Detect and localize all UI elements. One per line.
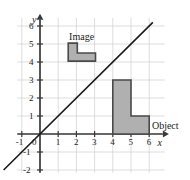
y-tick-label: 5 [29,40,34,49]
x-tick-label: 4 [110,138,115,147]
y-axis-name: y [32,15,36,25]
y-axis-arrow [37,14,44,20]
y-tick-label: 3 [29,76,34,85]
x-tick-label: -1 [16,138,24,147]
object-label: Object [152,121,179,131]
y-tick-label: 4 [29,58,34,67]
x-axis-arrow [163,131,169,138]
shape-object [113,80,149,134]
y-tick-label: -1 [23,148,31,157]
x-axis-name: x [157,138,161,148]
figure-canvas: -10123456-2-1123456xyImageObject [0,0,190,180]
x-tick-label: 1 [56,138,61,147]
x-tick-label-origin: 0 [32,138,37,147]
x-tick-label: 5 [129,138,134,147]
x-tick-label: 6 [147,138,152,147]
x-tick-label: 2 [74,138,79,147]
y-tick-label: 2 [29,94,34,103]
image-label: Image [69,32,94,42]
shape-image [68,43,95,61]
x-tick-label: 3 [92,138,97,147]
y-tick-label: 1 [29,112,34,121]
y-tick-label: -2 [23,166,31,175]
